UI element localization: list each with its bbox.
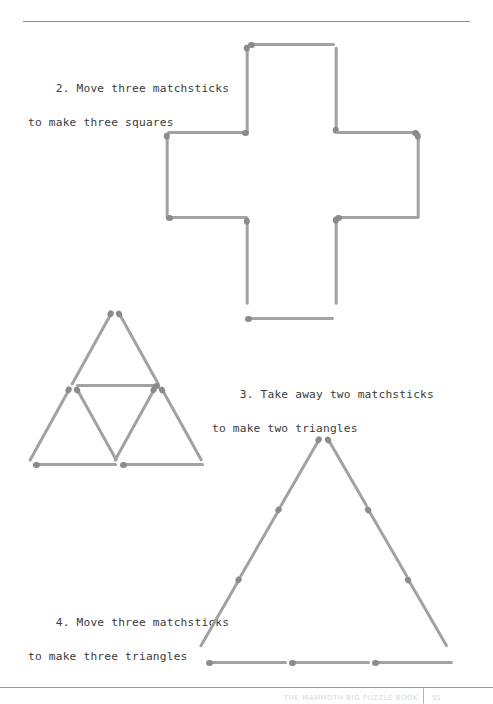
footer-page-number: 91 (432, 694, 472, 702)
matchstick (326, 437, 369, 508)
matchstick (199, 577, 242, 648)
matchstick (239, 507, 282, 578)
footer-divider (423, 688, 424, 704)
puzzle-4-figure-large-triangle (0, 0, 493, 704)
matchstick (406, 577, 449, 648)
matchstick (279, 437, 322, 508)
book-page: 2. Move three matchsticks to make three … (0, 0, 493, 704)
matchstick (207, 661, 287, 664)
matchstick (366, 507, 409, 578)
footer-title: THE MAMMOTH BIG PUZZLE BOOK (258, 694, 418, 702)
matchstick (373, 661, 453, 664)
matchstick (290, 661, 370, 664)
bottom-rule (0, 687, 493, 688)
